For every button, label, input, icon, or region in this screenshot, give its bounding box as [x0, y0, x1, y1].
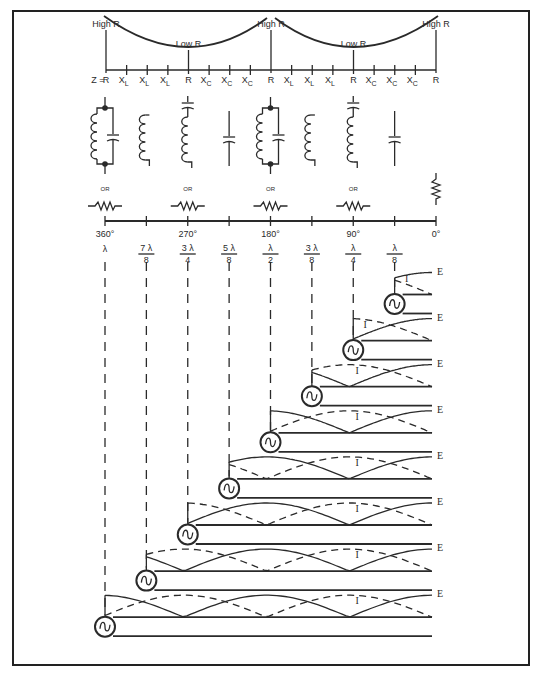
component-inductor	[305, 115, 315, 166]
current-label: I	[405, 273, 408, 284]
resistance-label: R	[433, 75, 440, 85]
degree-label: 90°	[346, 229, 360, 239]
wavelength-numerator: λ	[268, 243, 273, 253]
degree-label: 180°	[261, 229, 280, 239]
component-series-lc: OR	[171, 96, 205, 210]
resistance-label: R	[350, 75, 357, 85]
component-parallel-lc: OR	[88, 97, 122, 210]
voltage-label: E	[437, 404, 443, 415]
degree-label: 270°	[178, 229, 197, 239]
impedance-scale: High RZ =RXLXLXLLow RRXCXCXCHigh RRXLXLX…	[91, 16, 450, 87]
wavelength-numerator: λ	[392, 243, 397, 253]
wavelength-numerator: 3 λ	[182, 243, 195, 253]
current-label: I	[356, 549, 359, 560]
wire	[145, 160, 149, 166]
voltage-distribution	[395, 273, 432, 278]
voltage-distribution	[312, 365, 432, 387]
inductor-icon	[91, 114, 97, 159]
current-label: I	[356, 503, 359, 514]
wavelength-numerator: 5 λ	[223, 243, 236, 253]
reactance-label: XC	[366, 75, 377, 87]
component-capacitor	[389, 111, 401, 166]
resistor-icon	[336, 202, 370, 210]
wavelength-numerator: 3 λ	[306, 243, 319, 253]
transmission-line-diagram: High RZ =RXLXLXLLow RRXCXCXCHigh RRXLXLX…	[0, 0, 541, 674]
inductor-icon	[257, 114, 263, 159]
wire	[271, 140, 279, 164]
current-label: I	[364, 319, 367, 330]
or-label: OR	[101, 186, 111, 192]
current-distribution	[105, 595, 432, 617]
wire	[271, 108, 279, 134]
reactance-label: XC	[221, 75, 232, 87]
wire	[105, 140, 113, 164]
resistance-label: R	[268, 75, 275, 85]
equivalent-circuits: OROROROR	[88, 96, 440, 210]
reactance-label: XC	[242, 75, 253, 87]
resistor-icon	[432, 173, 440, 205]
voltage-label: E	[437, 266, 443, 277]
length-scale: 360°λ7 λ8270°3 λ45 λ8180°λ23 λ890°λ4λ80°	[96, 216, 441, 265]
current-label: I	[356, 411, 359, 422]
reactance-label: XC	[407, 75, 418, 87]
reactance-label: XL	[304, 75, 314, 87]
inductor-icon	[182, 117, 188, 162]
reactance-label: XC	[386, 75, 397, 87]
reactance-label: XL	[139, 75, 149, 87]
line-stage: EI	[302, 262, 443, 406]
lead-bottom	[188, 162, 192, 168]
inductor-icon	[347, 117, 353, 162]
wavelength-label: λ	[103, 244, 108, 254]
or-label: OR	[183, 186, 193, 192]
reactance-label: XC	[201, 75, 212, 87]
wavelength-numerator: 7 λ	[140, 243, 153, 253]
resistance-label: R	[185, 75, 192, 85]
resistor-icon	[171, 202, 205, 210]
resistance-label: R	[103, 75, 110, 85]
current-distribution	[395, 280, 432, 294]
degree-label: 0°	[432, 229, 441, 239]
resistor-icon	[88, 202, 122, 210]
reactance-label: XL	[160, 75, 170, 87]
or-label: OR	[266, 186, 276, 192]
component-capacitor	[223, 111, 235, 166]
reactance-label: XL	[119, 75, 129, 87]
degree-label: 360°	[96, 229, 115, 239]
component-series-lc: OR	[336, 96, 370, 210]
current-distribution	[188, 503, 432, 525]
wire	[105, 108, 113, 134]
voltage-label: E	[437, 312, 443, 323]
component-inductor	[139, 115, 149, 166]
or-label: OR	[349, 186, 359, 192]
high-r-label: High R	[257, 19, 285, 29]
inductor-icon	[139, 115, 145, 160]
voltage-label: E	[437, 588, 443, 599]
wire	[311, 160, 315, 166]
component-parallel-lc: OR	[254, 97, 288, 210]
current-distribution	[146, 549, 432, 571]
voltage-distribution	[146, 549, 432, 571]
component-resistor	[432, 173, 440, 205]
inductor-icon	[305, 115, 311, 160]
current-label: I	[356, 457, 359, 468]
lead-bottom	[353, 162, 357, 168]
transmission-line-stages: EIEIEIEIEIEIEIEI	[95, 262, 443, 637]
voltage-distribution	[229, 457, 432, 479]
reactance-label: XL	[325, 75, 335, 87]
voltage-label: E	[437, 450, 443, 461]
current-label: I	[356, 365, 359, 376]
line-stage: EI	[219, 262, 443, 498]
reactance-label: XL	[284, 75, 294, 87]
current-label: I	[356, 595, 359, 606]
voltage-label: E	[437, 542, 443, 553]
resistor-icon	[254, 202, 288, 210]
voltage-label: E	[437, 358, 443, 369]
wavelength-numerator: λ	[351, 243, 356, 253]
voltage-label: E	[437, 496, 443, 507]
current-distribution	[312, 365, 432, 387]
voltage-distribution	[188, 503, 432, 525]
line-stage: EI	[385, 262, 443, 314]
